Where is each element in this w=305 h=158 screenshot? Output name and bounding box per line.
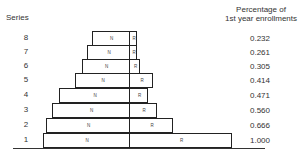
segment-r: R <box>130 134 233 147</box>
series-header: Series <box>6 13 29 22</box>
segment-r: R <box>130 119 174 132</box>
series-label: 7 <box>20 47 32 56</box>
series-bar: NR <box>52 103 157 118</box>
segment-n: N <box>44 134 130 147</box>
segment-r: R <box>130 60 141 73</box>
percentage-value: 0.414 <box>240 76 280 85</box>
pct-header-line1: Percentage of <box>218 5 304 14</box>
segment-r: R <box>130 32 138 45</box>
series-label: 1 <box>20 135 32 144</box>
percentage-value: 0.305 <box>240 62 280 71</box>
segment-r: R <box>130 74 154 87</box>
segment-n: N <box>53 104 130 117</box>
series-bar: NR <box>75 73 153 88</box>
center-divider-line <box>129 31 130 148</box>
percentage-value: 0.666 <box>240 121 280 130</box>
series-label: 6 <box>20 61 32 70</box>
series-bar: NR <box>46 118 173 133</box>
segment-r: R <box>130 104 158 117</box>
percentage-value: 0.471 <box>240 91 280 100</box>
segment-n: N <box>76 74 130 87</box>
series-label: 5 <box>20 75 32 84</box>
percentage-value: 0.232 <box>240 34 280 43</box>
segment-n: N <box>88 46 130 59</box>
baseline <box>13 148 265 149</box>
segment-n: N <box>60 89 130 102</box>
segment-r: R <box>130 89 149 102</box>
segment-n: N <box>47 119 130 132</box>
series-bar: NR <box>92 31 137 46</box>
percentage-value: 1.000 <box>240 136 280 145</box>
series-bar: NR <box>43 133 232 148</box>
series-label: 4 <box>20 90 32 99</box>
percentage-value: 0.560 <box>240 106 280 115</box>
series-label: 2 <box>20 120 32 129</box>
segment-n: N <box>93 32 130 45</box>
percentage-value: 0.261 <box>240 48 280 57</box>
segment-r: R <box>130 46 138 59</box>
series-label: 3 <box>20 105 32 114</box>
segment-n: N <box>83 60 130 73</box>
series-label: 8 <box>20 33 32 42</box>
series-bar: NR <box>59 88 148 103</box>
series-bar: NR <box>82 59 140 74</box>
pct-header-line2: 1st year enrollments <box>218 14 304 23</box>
pct-header: Percentage of 1st year enrollments <box>218 5 304 23</box>
